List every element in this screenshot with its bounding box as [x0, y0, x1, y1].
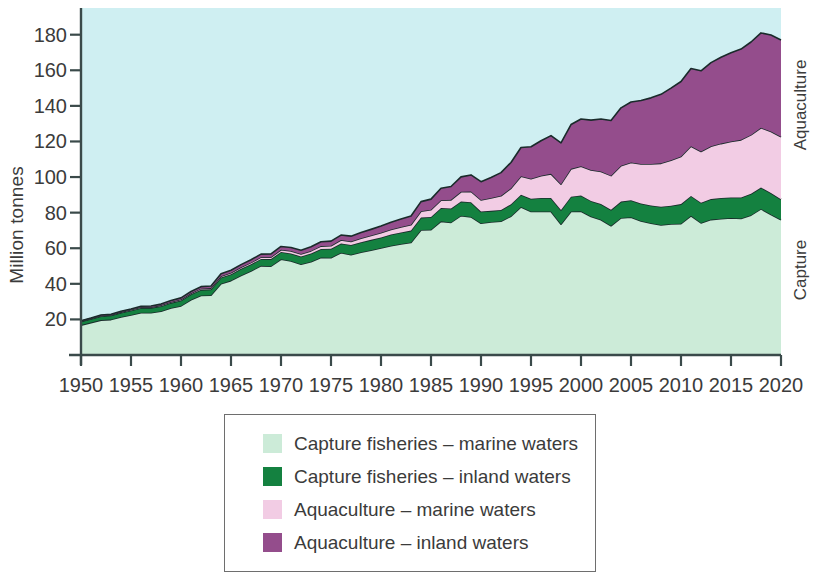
- legend-item-0: Capture fisheries – marine waters: [263, 427, 595, 460]
- y-tick-label-140: 140: [23, 96, 67, 116]
- x-tick-label-2000: 2000: [553, 375, 609, 395]
- legend-swatch-1: [263, 467, 282, 486]
- x-tick-label-1975: 1975: [303, 375, 359, 395]
- legend-label-3: Aquaculture – inland waters: [294, 532, 528, 554]
- y-tick-label-180: 180: [23, 25, 67, 45]
- x-tick-label-2015: 2015: [703, 375, 759, 395]
- legend-rows: Capture fisheries – marine watersCapture…: [263, 427, 595, 559]
- y-tick-label-160: 160: [23, 60, 67, 80]
- x-tick-label-2020: 2020: [753, 375, 809, 395]
- legend-swatch-0: [263, 434, 282, 453]
- x-tick-label-1995: 1995: [503, 375, 559, 395]
- y-axis-ticks: [70, 35, 81, 320]
- x-tick-label-1985: 1985: [403, 375, 459, 395]
- legend-item-2: Aquaculture – marine waters: [263, 493, 595, 526]
- x-tick-label-1990: 1990: [453, 375, 509, 395]
- legend-swatch-3: [263, 533, 282, 552]
- x-tick-label-1970: 1970: [253, 375, 309, 395]
- legend-label-1: Capture fisheries – inland waters: [294, 466, 571, 488]
- legend-item-1: Capture fisheries – inland waters: [263, 460, 595, 493]
- y-tick-label-60: 60: [23, 238, 67, 258]
- legend-label-2: Aquaculture – marine waters: [294, 499, 536, 521]
- x-axis-ticks: [81, 355, 781, 366]
- x-tick-label-2010: 2010: [653, 375, 709, 395]
- y-tick-label-40: 40: [23, 274, 67, 294]
- y-tick-label-120: 120: [23, 131, 67, 151]
- x-tick-label-1950: 1950: [53, 375, 109, 395]
- side-label-capture: Capture: [786, 215, 816, 325]
- legend-label-0: Capture fisheries – marine waters: [294, 433, 578, 455]
- chart-legend: Capture fisheries – marine watersCapture…: [224, 414, 596, 572]
- chart-figure: Million tonnes Aquaculture Capture 20406…: [0, 0, 822, 588]
- x-tick-label-1960: 1960: [153, 375, 209, 395]
- side-label-aquaculture-text: Aquaculture: [791, 60, 811, 151]
- side-label-capture-text: Capture: [791, 240, 811, 300]
- x-tick-label-2005: 2005: [603, 375, 659, 395]
- x-tick-label-1965: 1965: [203, 375, 259, 395]
- side-label-aquaculture: Aquaculture: [786, 30, 816, 180]
- y-tick-label-80: 80: [23, 203, 67, 223]
- x-tick-label-1955: 1955: [103, 375, 159, 395]
- y-axis-title: Million tonnes: [2, 120, 32, 330]
- x-tick-label-1980: 1980: [353, 375, 409, 395]
- legend-swatch-2: [263, 500, 282, 519]
- y-tick-label-100: 100: [23, 167, 67, 187]
- legend-item-3: Aquaculture – inland waters: [263, 526, 595, 559]
- y-tick-label-20: 20: [23, 309, 67, 329]
